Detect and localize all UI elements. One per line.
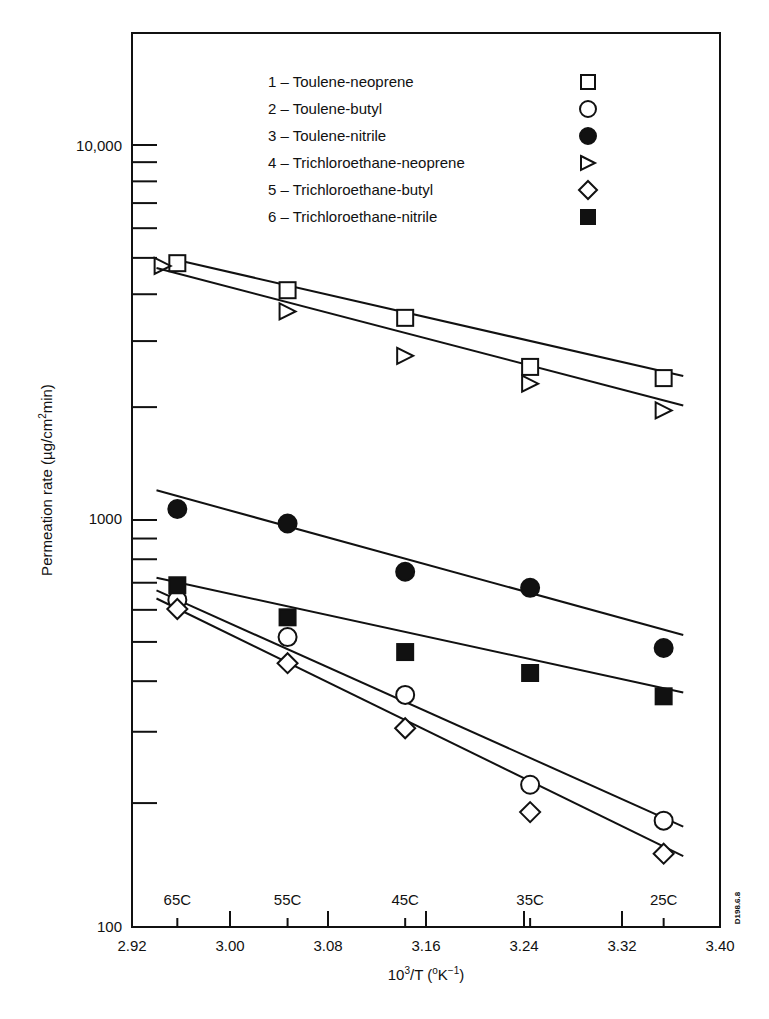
filled-circle-marker-icon (655, 639, 673, 657)
legend-item-3: 3 – Toulene-nitrile (268, 127, 596, 144)
x-tick-label: 3.40 (705, 937, 734, 954)
open-diamond-marker-icon (520, 802, 540, 822)
temperature-label: 35C (516, 891, 544, 908)
filled-circle-marker-icon (580, 128, 596, 144)
x-tick-label: 3.00 (215, 937, 244, 954)
open-square-marker-icon (397, 310, 413, 326)
filled-circle-marker-icon (279, 515, 297, 533)
fit-lines (157, 260, 684, 857)
open-circle-marker-icon (279, 628, 297, 646)
legend-label: 5 – Trichloroethane-butyl (268, 181, 433, 198)
y-axis-title: Permeation rate (µg/cm2min) (37, 384, 55, 576)
x-tick-label: 3.16 (411, 937, 440, 954)
open-circle-marker-icon (396, 686, 414, 704)
legend-item-4: 4 – Trichloroethane-neoprene (268, 154, 595, 171)
open-circle-marker-icon (521, 776, 539, 794)
legend-item-5: 5 – Trichloroethane-butyl (268, 181, 597, 199)
open-circle-marker-icon (655, 812, 673, 830)
filled-circle-marker-icon (396, 563, 414, 581)
open-triangle-marker-icon (656, 402, 672, 418)
fit-line-6 (157, 578, 684, 693)
filled-square-marker-icon (656, 688, 672, 704)
temperature-label: 55C (274, 891, 302, 908)
filled-circle-marker-icon (521, 579, 539, 597)
x-tick-label: 2.92 (117, 937, 146, 954)
open-triangle-marker-icon (522, 376, 538, 392)
legend-label: 4 – Trichloroethane-neoprene (268, 154, 465, 171)
fit-line-5 (157, 598, 684, 856)
open-square-marker-icon (522, 359, 538, 375)
y-tick-label-1000: 1000 (89, 510, 122, 527)
x-axis-ticks: 2.923.003.083.163.243.323.4065C55C45C35C… (117, 891, 734, 954)
open-square-marker-icon (169, 255, 185, 271)
x-tick-label: 3.32 (607, 937, 636, 954)
legend: 1 – Toulene-neoprene2 – Toulene-butyl3 –… (268, 73, 597, 225)
open-diamond-marker-icon (278, 653, 298, 673)
fit-line-4 (157, 268, 684, 406)
filled-square-marker-icon (581, 210, 595, 224)
open-diamond-marker-icon (654, 844, 674, 864)
open-square-marker-icon (656, 370, 672, 386)
temperature-label: 45C (391, 891, 419, 908)
temperature-label: 65C (164, 891, 192, 908)
open-triangle-marker-icon (397, 348, 413, 364)
figure-code-label: D198.6.8 (733, 891, 742, 924)
y-tick-label-10000: 10,000 (76, 137, 122, 154)
filled-square-marker-icon (522, 665, 538, 681)
data-points (155, 255, 674, 864)
legend-item-2: 2 – Toulene-butyl (268, 100, 596, 117)
permeation-chart: 2.923.003.083.163.243.323.4065C55C45C35C… (0, 0, 769, 1019)
temperature-label: 25C (650, 891, 678, 908)
open-square-marker-icon (280, 282, 296, 298)
filled-circle-marker-icon (168, 500, 186, 518)
open-triangle-marker-icon (581, 156, 595, 170)
open-triangle-marker-icon (280, 303, 296, 319)
fit-line-1 (175, 260, 683, 377)
open-square-marker-icon (581, 75, 595, 89)
legend-item-1: 1 – Toulene-neoprene (268, 73, 595, 90)
legend-label: 6 – Trichloroethane-nitrile (268, 208, 437, 225)
x-axis-title: 103/T (oK−1) (388, 965, 464, 983)
x-tick-label: 3.24 (509, 937, 538, 954)
open-diamond-marker-icon (579, 181, 597, 199)
legend-label: 3 – Toulene-nitrile (268, 127, 386, 144)
filled-square-marker-icon (280, 609, 296, 625)
fit-line-3 (157, 490, 684, 635)
y-tick-label-100: 100 (97, 918, 122, 935)
legend-item-6: 6 – Trichloroethane-nitrile (268, 208, 595, 225)
x-tick-label: 3.08 (313, 937, 342, 954)
open-diamond-marker-icon (395, 718, 415, 738)
legend-label: 2 – Toulene-butyl (268, 100, 382, 117)
open-circle-marker-icon (580, 101, 596, 117)
filled-square-marker-icon (397, 644, 413, 660)
fit-line-2 (157, 590, 684, 826)
filled-square-marker-icon (169, 577, 185, 593)
y-axis-ticks (132, 145, 157, 803)
legend-label: 1 – Toulene-neoprene (268, 73, 414, 90)
